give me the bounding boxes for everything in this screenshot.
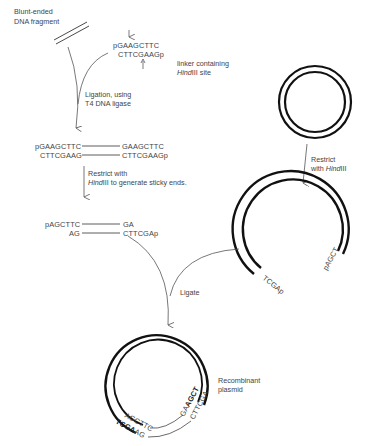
sticky-left-bottom: AG — [69, 229, 80, 238]
restrict-fragment-label-2: HindIII to generate sticky ends. — [88, 178, 187, 187]
restrict-plasmid-label-1: Restrict — [311, 155, 335, 164]
recombinant-plasmid: AGCTTC TCGAAG GAAGCT CTTCGA — [106, 335, 211, 440]
fragment-to-ligate-arrow — [128, 236, 168, 325]
recombinant-label-1: Recombinant — [218, 376, 260, 385]
restrict-plasmid-arrow — [303, 144, 307, 183]
blunt-label-2: DNA fragment — [14, 17, 59, 26]
recombinant-label-2: plasmid — [218, 385, 243, 394]
blunt-label-1: Blunt-ended — [14, 7, 53, 16]
linker: pGAAGCTTC CTTCGAAGp linker containing Hi… — [113, 30, 229, 77]
fragment-to-ligation-arrow — [68, 47, 78, 128]
sticky-fragment: pAGCTTC AG GA CTTCGAp — [45, 220, 158, 238]
restrict-plasmid-label-2: with HindIII — [310, 164, 347, 173]
ligation-label-2: T4 DNA ligase — [85, 99, 131, 108]
ligation-label-1: Ligation, using — [85, 90, 131, 99]
linker-label-1: linker containing — [177, 59, 229, 68]
opened-plasmid: TCGAp pAGCT — [233, 171, 349, 296]
cloning-diagram: Blunt-ended DNA fragment pGAAGCTTC CTTCG… — [0, 0, 366, 446]
fragment-strand-bottom — [56, 26, 89, 44]
linker-top-strand: pGAAGCTTC — [113, 41, 160, 50]
linker-label-2: HindIII site — [177, 68, 211, 77]
open-end-left: TCGAp — [261, 273, 286, 296]
sticky-left-top: pAGCTTC — [45, 220, 81, 229]
ligated-left-top: pGAAGCTTC — [35, 142, 82, 151]
linker-bottom-strand: CTTCGAAGp — [118, 50, 164, 59]
restrict-fragment-label-1: Restrict with — [88, 169, 127, 178]
ligated-fragment: pGAAGCTTC CTTCGAAG GAAGCTTC CTTCGAAGp — [35, 142, 168, 160]
sticky-right-top: GA — [123, 220, 134, 229]
sticky-right-bottom: CTTCGAp — [123, 229, 158, 238]
ligated-right-bottom: CTTCGAAGp — [122, 151, 168, 160]
ligate-label: Ligate — [180, 288, 200, 297]
ligated-right-top: GAAGCTTC — [122, 142, 164, 151]
ligated-left-bottom: CTTCGAAG — [40, 151, 82, 160]
intact-plasmid — [279, 66, 351, 138]
open-end-right: pAGCT — [321, 245, 341, 272]
blunt-dna-fragment: Blunt-ended DNA fragment — [14, 7, 89, 44]
